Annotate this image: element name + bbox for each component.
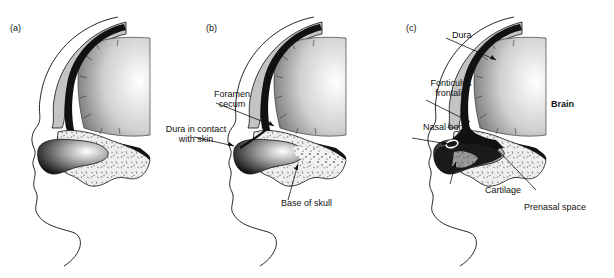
- panel-c-label: (c): [406, 23, 417, 33]
- label-nasal-bone: Nasal bone: [423, 122, 469, 132]
- label-cartilage: Cartilage: [485, 185, 521, 195]
- label-line: Fonticulus: [426, 78, 476, 88]
- diagram-canvas: [0, 0, 614, 278]
- label-line: cecum: [202, 99, 262, 109]
- label-line: Dura in contact: [160, 124, 232, 134]
- panel-a: [32, 17, 150, 266]
- panel-c: [412, 17, 546, 266]
- embryology-diagram: (a) (b) (c) Foramen cecum Dura in contac…: [0, 0, 614, 278]
- panel-a-label: (a): [10, 23, 21, 33]
- label-line: Foramen: [202, 89, 262, 99]
- label-base-of-skull: Base of skull: [281, 198, 332, 208]
- label-brain: Brain: [551, 99, 574, 109]
- label-foramen-cecum: Foramen cecum: [202, 89, 262, 109]
- label-line: with skin: [160, 134, 232, 144]
- label-fonticulus-frontalis: Fonticulus frontalis: [426, 78, 476, 98]
- panel-b-label: (b): [206, 23, 217, 33]
- label-dura: Dura: [452, 30, 472, 40]
- label-prenasal-space: Prenasal space: [524, 202, 586, 212]
- label-dura-in-contact-with-skin: Dura in contact with skin: [160, 124, 232, 144]
- label-line: frontalis: [426, 88, 476, 98]
